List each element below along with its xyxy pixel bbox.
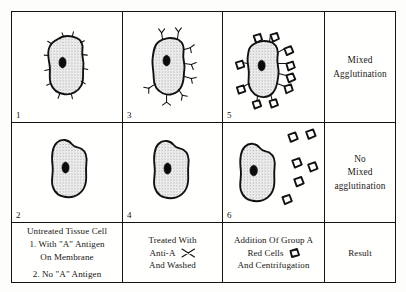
panel-number: 2: [16, 211, 21, 220]
caption-line-with-glyph: Red Cells: [247, 247, 299, 260]
caption-line: Anti-A: [149, 247, 175, 260]
diagram-sheet: 1: [0, 0, 406, 292]
mixed-agglutination-drawing: [223, 12, 324, 122]
panel-2: 2: [12, 123, 123, 223]
mixed-agglutination-table: 1: [11, 11, 396, 283]
free-red-cells-drawing: [223, 123, 324, 222]
result-line: No: [354, 153, 366, 165]
result-negative-text: No Mixed agglutination: [325, 123, 395, 222]
panel-5: 5: [223, 12, 325, 123]
panel-number: 1: [16, 111, 21, 120]
red-cell-glyphs: [282, 129, 317, 204]
caption-untreated-cell: Untreated Tissue Cell 1. With "A" Antige…: [12, 223, 122, 283]
result-line: Mixed: [347, 54, 372, 66]
caption-column-4: Result: [325, 223, 395, 283]
washed-plain-cell-drawing: [123, 123, 222, 222]
result-positive: Mixed Agglutination: [325, 12, 395, 123]
caption-line: Treated With: [148, 234, 196, 247]
caption-column-1: Untreated Tissue Cell 1. With "A" Antige…: [12, 223, 123, 283]
result-line: Mixed: [347, 166, 372, 178]
caption-line: On Membrane: [40, 251, 93, 264]
panel-number: 5: [227, 111, 232, 120]
caption-anti-a-treatment: Treated With Anti-A And Washed: [123, 223, 222, 283]
panel-1: 1: [12, 12, 123, 123]
caption-column-3: Addition Of Group A Red Cells And Centri…: [223, 223, 325, 283]
antibody-glyph: [181, 248, 196, 258]
caption-line: 2. No "A" Antigen: [33, 268, 102, 281]
panel-3: 3: [123, 12, 223, 123]
panel-6: 6: [223, 123, 325, 223]
result-positive-text: Mixed Agglutination: [325, 12, 395, 122]
panel-number: 6: [227, 211, 232, 220]
cell-with-antigen-drawing: [12, 12, 122, 122]
caption-line: And Centrifugation: [237, 259, 309, 272]
plain-cell-drawing: [12, 123, 122, 222]
caption-line: Result: [348, 247, 372, 260]
result-line: agglutination: [334, 180, 385, 192]
result-line: Agglutination: [333, 68, 387, 80]
antibody-coated-cell-drawing: [123, 12, 222, 122]
caption-line-with-glyph: Anti-A: [149, 247, 195, 260]
caption-line: Addition Of Group A: [234, 234, 313, 247]
caption-red-cell-addition: Addition Of Group A Red Cells And Centri…: [223, 223, 324, 283]
caption-line: 1. With "A" Antigen: [29, 238, 104, 251]
panel-number: 3: [127, 111, 132, 120]
red-cell-glyph: [289, 248, 300, 258]
caption-line: Untreated Tissue Cell: [27, 225, 107, 238]
caption-result: Result: [325, 223, 395, 283]
caption-line: And Washed: [149, 259, 196, 272]
panel-4: 4: [123, 123, 223, 223]
result-negative: No Mixed agglutination: [325, 123, 395, 223]
panel-number: 4: [127, 211, 132, 220]
caption-line: Red Cells: [247, 247, 283, 260]
caption-column-2: Treated With Anti-A And Washed: [123, 223, 223, 283]
